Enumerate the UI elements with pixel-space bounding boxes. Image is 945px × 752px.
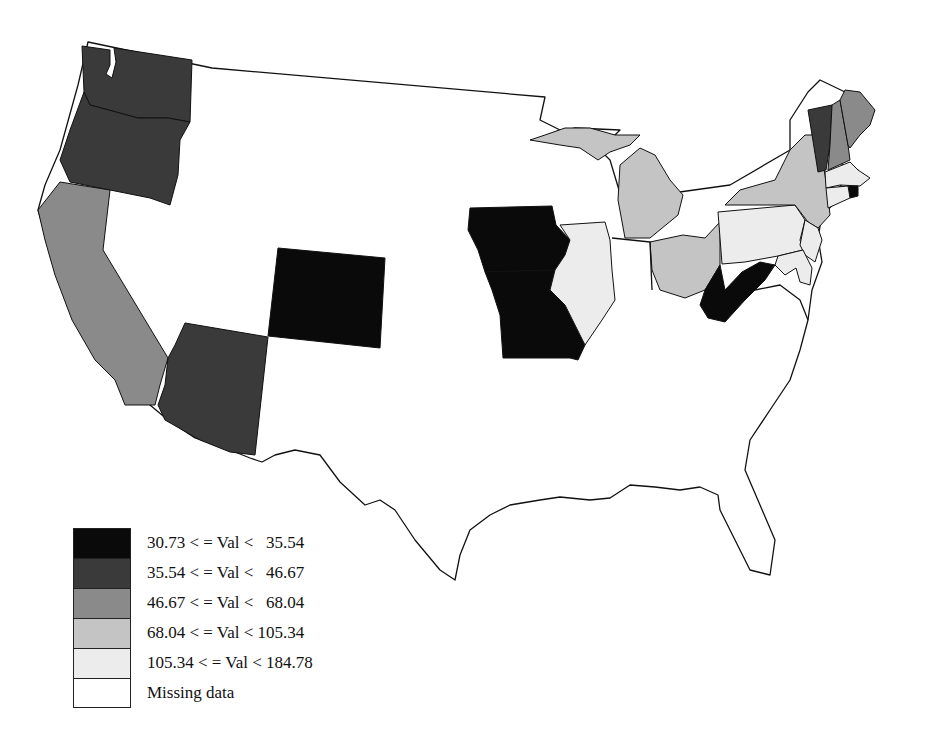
state-colorado[interactable] — [268, 248, 385, 348]
legend-item: 35.54 < = Val < 46.67 — [73, 558, 313, 588]
state-connecticut[interactable] — [826, 186, 850, 208]
legend-item: 105.34 < = Val < 184.78 — [73, 648, 313, 678]
legend-swatch — [73, 618, 131, 648]
legend-item: Missing data — [73, 678, 313, 708]
legend-swatch — [73, 678, 131, 708]
legend-swatch — [73, 588, 131, 618]
border-indiana-ohio — [612, 238, 652, 290]
legend-label: Missing data — [147, 683, 234, 703]
legend-swatch — [73, 528, 131, 558]
legend-swatch — [73, 648, 131, 678]
legend-item: 46.67 < = Val < 68.04 — [73, 588, 313, 618]
state-michigan-lower[interactable] — [618, 148, 683, 238]
legend-label: 105.34 < = Val < 184.78 — [147, 653, 313, 673]
state-california[interactable] — [38, 182, 168, 405]
legend-item: 68.04 < = Val < 105.34 — [73, 618, 313, 648]
state-michigan-upper[interactable] — [530, 128, 640, 160]
legend-label: 68.04 < = Val < 105.34 — [147, 623, 304, 643]
map-legend: 30.73 < = Val < 35.54 35.54 < = Val < 46… — [73, 528, 313, 708]
state-arizona[interactable] — [158, 323, 268, 455]
legend-label: 30.73 < = Val < 35.54 — [147, 533, 304, 553]
legend-item: 30.73 < = Val < 35.54 — [73, 528, 313, 558]
legend-swatch — [73, 558, 131, 588]
border-virginia — [755, 285, 808, 320]
legend-label: 35.54 < = Val < 46.67 — [147, 563, 304, 583]
state-iowa[interactable] — [468, 206, 570, 272]
legend-label: 46.67 < = Val < 68.04 — [147, 593, 304, 613]
